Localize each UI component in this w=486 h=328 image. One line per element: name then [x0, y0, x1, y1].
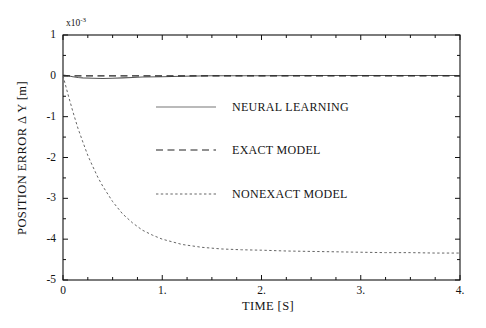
- axis-minor-ticks: [63, 35, 460, 280]
- y-tick-label: 1: [50, 28, 56, 40]
- x-tick-label: 4.: [456, 284, 465, 296]
- x-tick-label: 0: [60, 284, 66, 296]
- y-tick-label: -4: [46, 232, 56, 244]
- legend-label-neural-learning: NEURAL LEARNING: [232, 100, 349, 114]
- y-axis-exponent-base: x10: [66, 18, 81, 28]
- x-tick-label: 1.: [158, 284, 167, 296]
- y-tick-label: -3: [46, 191, 56, 203]
- y-tick-label: 0: [50, 69, 56, 81]
- y-axis-exponent-label: x10-3: [66, 16, 87, 28]
- legend-label-exact-model: EXACT MODEL: [232, 143, 321, 157]
- x-axis-title: TIME [S]: [242, 299, 294, 313]
- y-tick-label: -2: [46, 151, 56, 163]
- figure-container: x10-3 10-1-2-3-4-5 01.2.3.4. TIME [S] PO…: [0, 0, 486, 328]
- x-tick-label: 3.: [356, 284, 365, 296]
- position-error-line-chart: x10-3 10-1-2-3-4-5 01.2.3.4. TIME [S] PO…: [0, 0, 486, 328]
- y-axis-title: POSITION ERROR Δ Y [m]: [15, 81, 29, 235]
- legend: NEURAL LEARNINGEXACT MODELNONEXACT MODEL: [156, 100, 349, 201]
- y-tick-label: -5: [46, 273, 56, 285]
- plot-frame: [63, 35, 460, 280]
- y-axis-exponent-power: -3: [80, 16, 86, 24]
- y-tick-label: -1: [46, 110, 56, 122]
- legend-label-nonexact-model: NONEXACT MODEL: [232, 187, 348, 201]
- x-tick-label: 2.: [257, 284, 266, 296]
- x-axis-ticks: 01.2.3.4.: [60, 35, 464, 296]
